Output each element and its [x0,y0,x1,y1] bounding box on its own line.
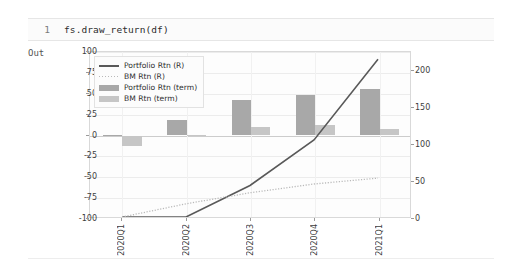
chart-legend: Portfolio Rtn (R)BM Rtn (R)Portfolio Rtn… [94,56,204,108]
y-axis-left-tick-label: -25 [57,151,97,160]
y-axis-right-tick-mark [411,144,414,145]
line-bm-cumulative [122,178,378,217]
cell-divider-output-bottom [28,258,494,259]
legend-swatch-icon [99,72,119,81]
y-axis-left-tick-label: -100 [57,214,97,223]
y-axis-right-tick-mark [411,70,414,71]
legend-item-label: Portfolio Rtn (term) [124,82,197,93]
code-line-number: 1 [28,24,50,35]
y-axis-left-tick-label: -50 [57,172,97,181]
x-axis-tick-mark [314,218,315,221]
x-axis-tick-mark [250,218,251,221]
legend-item-label: BM Rtn (term) [124,93,178,104]
y-axis-right-tick-label: 100 [415,139,455,148]
y-axis-right-tick-label: 200 [415,65,455,74]
y-axis-right-tick-label: 50 [415,176,455,185]
y-axis-right-tick-mark [411,181,414,182]
code-cell[interactable]: 1 fs.draw_return(df) [28,19,494,40]
legend-item: Portfolio Rtn (term) [99,82,197,93]
legend-item-label: Portfolio Rtn (R) [124,60,184,71]
y-axis-left-tick-mark [86,218,89,219]
y-axis-right-tick-mark [411,107,414,108]
y-axis-left-tick-mark [86,176,89,177]
legend-item: Portfolio Rtn (R) [99,60,197,71]
x-axis-tick-mark [186,218,187,221]
legend-item: BM Rtn (R) [99,71,197,82]
code-text: fs.draw_return(df) [64,24,169,35]
y-axis-left-tick-mark [86,51,89,52]
legend-swatch-icon [99,61,119,70]
y-axis-left-tick-label: 75 [57,67,97,76]
legend-item-label: BM Rtn (R) [124,71,165,82]
x-axis-tick-label-2020Q4: 2020Q4 [310,224,319,256]
y-axis-left-tick-label: -75 [57,193,97,202]
y-axis-left-tick-mark [86,197,89,198]
legend-swatch-icon [99,85,119,91]
y-axis-left-tick-label: 100 [57,47,97,56]
x-axis-tick-label-2021Q1: 2021Q1 [375,224,384,256]
y-axis-left-tick-mark [86,114,89,115]
y-axis-right-tick-label: 0 [415,214,455,223]
y-axis-right-tick-mark [411,218,414,219]
y-axis-left-tick-label: 50 [57,88,97,97]
x-axis-tick-label-2020Q3: 2020Q3 [246,224,255,256]
y-axis-left-tick-mark [86,72,89,73]
notebook-output-page: 1 fs.draw_return(df) Out 1007550250-25-5… [0,0,506,270]
y-axis-left-tick-mark [86,155,89,156]
output-label: Out [28,48,44,58]
legend-swatch-icon [99,96,119,102]
x-axis-tick-label-2020Q1: 2020Q1 [117,224,126,256]
x-axis-tick-mark [121,218,122,221]
y-axis-left-tick-label: 0 [57,130,97,139]
y-axis-left-tick-mark [86,135,89,136]
y-axis-left-tick-mark [86,93,89,94]
y-axis-left-tick-label: 25 [57,109,97,118]
y-axis-right-tick-label: 150 [415,102,455,111]
x-axis-tick-mark [379,218,380,221]
cell-divider-bottom [28,40,494,41]
chart-figure: 1007550250-25-50-75-1002001501005002020Q… [57,46,452,261]
x-axis-tick-label-2020Q2: 2020Q2 [182,224,191,256]
legend-item: BM Rtn (term) [99,93,197,104]
